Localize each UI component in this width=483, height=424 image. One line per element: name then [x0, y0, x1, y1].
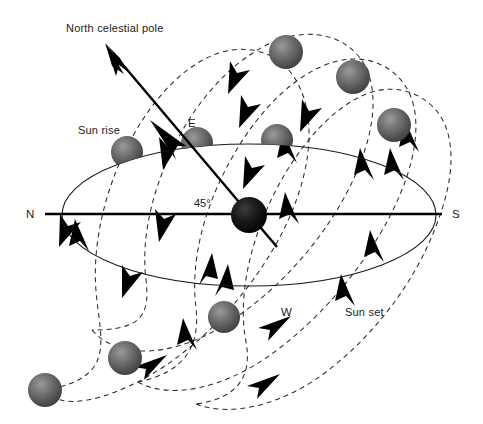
- label-cardinal-south: S: [452, 208, 460, 220]
- celestial-sphere-diagram: North celestial pole Sun rise Sun set N …: [0, 0, 483, 424]
- celestial-diagram-canvas: North celestial pole Sun rise Sun set N …: [0, 0, 483, 424]
- sun-sphere-group-upper: [269, 35, 411, 142]
- label-sun-set: Sun set: [345, 306, 384, 318]
- sun-night-low-position: [28, 373, 62, 407]
- label-cardinal-east: E: [188, 117, 196, 129]
- path-arrow-ascend-4: [239, 95, 261, 128]
- label-cardinal-west: W: [281, 306, 292, 318]
- path-arrow-descend-7: [335, 274, 355, 306]
- path-arrow-descend-6: [364, 230, 384, 262]
- sun-west-below-position: [208, 301, 240, 333]
- diurnal-path-a: [45, 49, 309, 401]
- path-arrow-descend-10: [258, 316, 291, 341]
- label-sun-rise: Sun rise: [78, 124, 120, 136]
- sun-sphere-group-lower: [28, 301, 240, 407]
- path-arrow-descend-14: [199, 253, 218, 285]
- label-north-celestial-pole: North celestial pole: [66, 22, 164, 34]
- sun-afternoon-position: [377, 108, 411, 142]
- sun-rise-position: [111, 136, 143, 168]
- path-arrow-descend-3: [384, 148, 404, 180]
- sun-upper-left-position: [269, 35, 303, 69]
- path-arrow-descend-2: [354, 148, 374, 180]
- sun-sphere-group-horizon: [111, 124, 293, 168]
- sun-noon-position: [336, 60, 370, 94]
- path-arrow-descend-11: [247, 374, 280, 399]
- path-arrow-ascend-5: [300, 99, 322, 132]
- path-arrow-descend-13: [215, 264, 234, 296]
- label-latitude-angle: 45°: [194, 197, 211, 209]
- path-arrow-ascend-3: [228, 61, 250, 94]
- label-cardinal-north: N: [26, 208, 34, 220]
- path-arrow-ascend-6: [243, 156, 265, 189]
- sun-night-mid-position: [108, 341, 142, 375]
- observer-earth: [231, 197, 267, 233]
- north-celestial-pole-arrow-tip: [105, 43, 128, 76]
- path-arrow-ascend-7: [122, 265, 143, 298]
